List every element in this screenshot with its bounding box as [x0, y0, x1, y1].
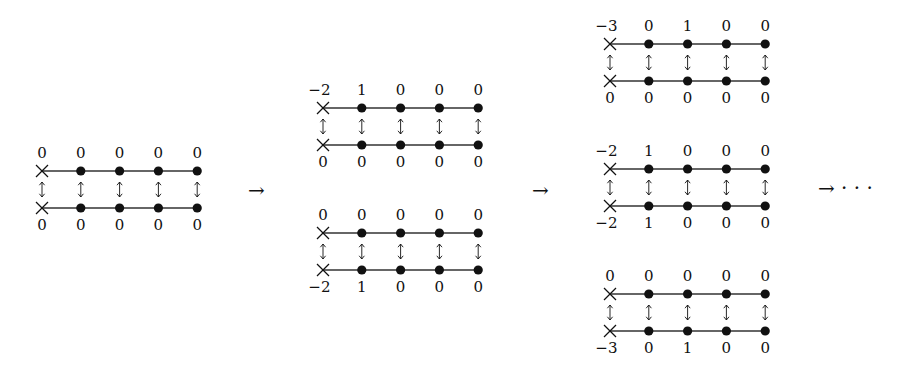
top-value: 1 — [347, 83, 377, 98]
filled-dot-icon — [761, 76, 770, 85]
bottom-value: 0 — [595, 91, 625, 106]
top-value: 0 — [711, 19, 741, 34]
bottom-value: −3 — [591, 341, 621, 356]
updown-arrow-icon — [476, 119, 481, 134]
top-value: 0 — [634, 19, 664, 34]
diagram-2a — [317, 102, 483, 151]
filled-dot-icon — [683, 39, 692, 48]
diagram-initial — [36, 165, 202, 214]
updown-arrow-icon — [685, 180, 690, 195]
updown-arrow-icon — [437, 244, 442, 259]
bottom-value: 0 — [424, 155, 454, 170]
top-value: 0 — [711, 144, 741, 159]
updown-arrow-icon — [437, 119, 442, 134]
top-value: 0 — [463, 208, 493, 223]
top-value: 0 — [595, 269, 625, 284]
filled-dot-icon — [722, 39, 731, 48]
filled-dot-icon — [722, 164, 731, 173]
updown-arrow-icon — [685, 305, 690, 320]
filled-dot-icon — [644, 164, 653, 173]
updown-arrow-icon — [359, 244, 364, 259]
diagram-3c — [604, 288, 770, 337]
updown-arrow-icon — [78, 182, 83, 197]
diagram-canvas: 0000000000−210000000000000−21000−3010000… — [0, 0, 901, 376]
filled-dot-icon — [357, 265, 366, 274]
diagram-3b — [604, 163, 770, 212]
bottom-value: 0 — [711, 341, 741, 356]
bottom-value: 1 — [347, 280, 377, 295]
updown-arrow-icon — [724, 305, 729, 320]
filled-dot-icon — [396, 140, 405, 149]
filled-dot-icon — [644, 289, 653, 298]
filled-dot-icon — [474, 140, 483, 149]
bottom-value: 0 — [750, 216, 780, 231]
updown-arrow-icon — [685, 55, 690, 70]
top-value: 0 — [347, 208, 377, 223]
filled-dot-icon — [357, 140, 366, 149]
top-value: 0 — [634, 269, 664, 284]
filled-dot-icon — [644, 39, 653, 48]
filled-dot-icon — [683, 201, 692, 210]
diagram-3a — [604, 38, 770, 87]
updown-arrow-icon — [320, 244, 325, 259]
top-value: 0 — [711, 269, 741, 284]
bottom-value: 0 — [634, 91, 664, 106]
bottom-value: 0 — [750, 91, 780, 106]
top-value: 0 — [424, 208, 454, 223]
filled-dot-icon — [722, 326, 731, 335]
bottom-value: −2 — [304, 280, 334, 295]
updown-arrow-icon — [607, 305, 612, 320]
bottom-value: 0 — [463, 155, 493, 170]
filled-dot-icon — [396, 103, 405, 112]
filled-dot-icon — [474, 228, 483, 237]
bottom-value: 0 — [66, 218, 96, 233]
filled-dot-icon — [357, 228, 366, 237]
bottom-value: 0 — [424, 280, 454, 295]
updown-arrow-icon — [607, 55, 612, 70]
bottom-value: 0 — [386, 155, 416, 170]
filled-dot-icon — [761, 39, 770, 48]
filled-dot-icon — [474, 103, 483, 112]
updown-arrow-icon — [476, 244, 481, 259]
top-value: 0 — [386, 83, 416, 98]
diagram-svg — [0, 0, 901, 376]
filled-dot-icon — [154, 166, 163, 175]
top-value: 0 — [27, 146, 57, 161]
updown-arrow-icon — [117, 182, 122, 197]
bottom-value: 0 — [182, 218, 212, 233]
top-value: 0 — [66, 146, 96, 161]
filled-dot-icon — [115, 166, 124, 175]
updown-arrow-icon — [156, 182, 161, 197]
filled-dot-icon — [761, 326, 770, 335]
updown-arrow-icon — [398, 119, 403, 134]
bottom-value: 0 — [105, 218, 135, 233]
top-value: 0 — [750, 269, 780, 284]
filled-dot-icon — [722, 289, 731, 298]
top-value: 1 — [673, 19, 703, 34]
filled-dot-icon — [357, 103, 366, 112]
filled-dot-icon — [644, 76, 653, 85]
top-value: −3 — [591, 19, 621, 34]
bottom-value: 0 — [143, 218, 173, 233]
filled-dot-icon — [683, 76, 692, 85]
top-value: 1 — [634, 144, 664, 159]
bottom-value: 0 — [27, 218, 57, 233]
filled-dot-icon — [435, 103, 444, 112]
filled-dot-icon — [683, 326, 692, 335]
filled-dot-icon — [154, 203, 163, 212]
updown-arrow-icon — [724, 180, 729, 195]
top-value: 0 — [308, 208, 338, 223]
filled-dot-icon — [722, 76, 731, 85]
bottom-value: 1 — [673, 341, 703, 356]
filled-dot-icon — [396, 265, 405, 274]
updown-arrow-icon — [39, 182, 44, 197]
filled-dot-icon — [193, 166, 202, 175]
filled-dot-icon — [644, 326, 653, 335]
filled-dot-icon — [722, 201, 731, 210]
filled-dot-icon — [435, 228, 444, 237]
top-value: 0 — [750, 144, 780, 159]
top-value: 0 — [386, 208, 416, 223]
top-value: 0 — [750, 19, 780, 34]
bottom-value: 0 — [711, 216, 741, 231]
diagram-2b — [317, 227, 483, 276]
